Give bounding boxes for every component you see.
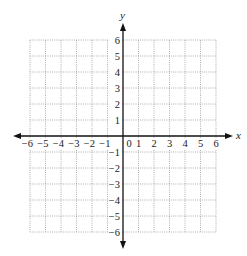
x-axis-label: x bbox=[235, 129, 241, 141]
y-tick-label: −4 bbox=[109, 195, 121, 206]
x-tick-label: 1 bbox=[136, 138, 141, 149]
x-tick-label: 6 bbox=[213, 138, 218, 149]
x-tick-label: 4 bbox=[182, 138, 188, 149]
y-tick-label: −3 bbox=[109, 179, 120, 190]
x-tick-label: −2 bbox=[84, 138, 95, 149]
y-axis-up-arrow-icon bbox=[120, 23, 126, 31]
axes bbox=[13, 23, 233, 249]
x-axis-left-arrow-icon bbox=[13, 133, 21, 139]
x-axis-right-arrow-icon bbox=[225, 133, 233, 139]
y-tick-label: 2 bbox=[115, 99, 120, 110]
coordinate-plane: −6−5−4−3−2−10123456654321−1−2−3−4−5−6 x … bbox=[0, 0, 247, 256]
y-tick-label: 1 bbox=[115, 115, 120, 126]
x-tick-label: 3 bbox=[167, 138, 172, 149]
y-tick-label: 5 bbox=[115, 51, 120, 62]
y-tick-label: 4 bbox=[115, 67, 121, 78]
x-tick-label: 2 bbox=[151, 138, 156, 149]
x-tick-label: −5 bbox=[37, 138, 48, 149]
y-tick-label: −5 bbox=[109, 211, 120, 222]
y-axis-down-arrow-icon bbox=[120, 241, 126, 249]
y-axis-label: y bbox=[119, 9, 125, 21]
y-tick-label: 3 bbox=[115, 83, 120, 94]
x-tick-label: −4 bbox=[53, 138, 65, 149]
y-tick-label: 6 bbox=[115, 35, 120, 46]
y-tick-label: −6 bbox=[109, 227, 120, 238]
x-tick-label: −3 bbox=[68, 138, 79, 149]
x-tick-label: −6 bbox=[22, 138, 33, 149]
y-tick-label: −1 bbox=[109, 147, 120, 158]
x-tick-label: 0 bbox=[126, 138, 131, 149]
x-tick-label: 5 bbox=[198, 138, 203, 149]
y-tick-label: −2 bbox=[109, 163, 120, 174]
